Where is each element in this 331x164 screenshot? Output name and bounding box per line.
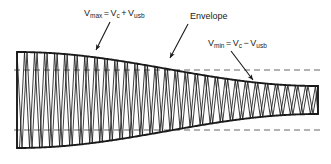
vmax-sub3: usb: [134, 12, 144, 19]
vmax-sub1: max: [90, 12, 102, 19]
vmax-label: Vmax=Vc+Vusb: [84, 9, 145, 18]
am-envelope-figure: Vmax=Vc+Vusb Envelope Vmin=Vc−Vusb: [0, 0, 331, 164]
vmax-sub2: c: [117, 12, 120, 19]
carrier-oscillations: [17, 52, 318, 148]
vmax-operator: +: [120, 8, 128, 18]
vmin-sub1: min: [214, 42, 224, 49]
annotation-leader-lines: [96, 22, 253, 80]
vmin-sub2: c: [239, 42, 242, 49]
waveform-canvas: [0, 0, 331, 164]
envelope-label: Envelope: [190, 12, 228, 21]
envelope-leader-line: [170, 24, 188, 58]
vmin-sub3: usb: [256, 42, 266, 49]
vmax-equals: =: [102, 8, 110, 18]
vmax-leader-line: [96, 22, 110, 50]
upper-envelope-curve: [17, 52, 318, 86]
vmin-label: Vmin=Vc−Vusb: [208, 39, 267, 48]
vmin-var2: V: [233, 38, 239, 48]
vmax-var2: V: [111, 8, 117, 18]
vmin-equals: =: [225, 38, 233, 48]
vmin-leader-line: [231, 51, 253, 80]
